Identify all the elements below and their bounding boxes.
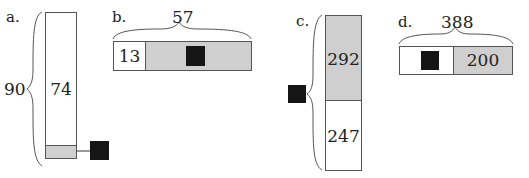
diagram-c-label: c. [296,14,309,29]
diagram-a-unknown-part [45,145,77,159]
diagram-b-part-1-value: 13 [113,48,146,65]
diagram-b-total: 57 [172,9,194,26]
unknown-square-c [288,85,306,103]
diagram-d-part-2-value: 200 [453,52,513,69]
brace-a [27,12,42,166]
unknown-square-d [421,51,439,70]
diagram-a-total: 90 [4,81,26,98]
diagram-c-part-1-value: 292 [325,51,362,68]
diagram-d-total: 388 [441,14,473,31]
unknown-square-a [90,141,109,160]
brace-c [307,15,322,170]
diagram-c-part-2-value: 247 [325,128,362,145]
diagram-a-label: a. [6,10,20,25]
diagram-d-label: d. [398,15,412,30]
diagram-b-label: b. [112,10,126,25]
unknown-square-b [186,46,205,66]
diagram-a-part-1: 74 [47,81,75,98]
